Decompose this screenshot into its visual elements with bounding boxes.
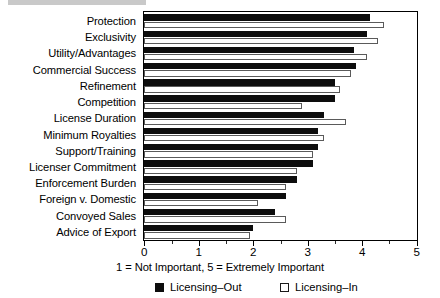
bar-licensing-out bbox=[144, 112, 324, 118]
hollow-square-icon bbox=[280, 283, 289, 292]
bar-licensing-in bbox=[144, 151, 313, 157]
bar-licensing-in bbox=[144, 216, 286, 222]
bar-licensing-out bbox=[144, 63, 356, 69]
bar-licensing-in bbox=[144, 200, 258, 206]
bar-licensing-out bbox=[144, 128, 318, 134]
bar-row bbox=[144, 46, 417, 62]
bar-row bbox=[144, 29, 417, 45]
bar-row bbox=[144, 94, 417, 110]
bar-licensing-out bbox=[144, 160, 313, 166]
category-label: Commercial Success bbox=[33, 62, 136, 78]
bar-licensing-in bbox=[144, 135, 324, 141]
bar-chart: ProtectionExclusivityUtility/AdvantagesC… bbox=[0, 0, 440, 298]
category-label: Convoyed Sales bbox=[56, 208, 136, 224]
bar-licensing-in bbox=[144, 232, 250, 238]
category-label: Refinement bbox=[80, 78, 136, 94]
legend-label-licensing-out: Licensing–Out bbox=[170, 281, 242, 293]
bar-row bbox=[144, 175, 417, 191]
bar-licensing-out bbox=[144, 209, 275, 215]
category-label: Enforcement Burden bbox=[35, 175, 136, 191]
x-axis-label: 1 = Not Important, 5 = Extremely Importa… bbox=[0, 261, 440, 273]
bar-licensing-in bbox=[144, 54, 367, 60]
bar-licensing-in bbox=[144, 103, 302, 109]
category-label: Minimum Royalties bbox=[43, 127, 136, 143]
bar-row bbox=[144, 127, 417, 143]
bar-row bbox=[144, 143, 417, 159]
x-tick-label: 4 bbox=[342, 244, 382, 260]
legend-label-licensing-in: Licensing–In bbox=[295, 281, 358, 293]
bar-licensing-out bbox=[144, 95, 335, 101]
category-label: Competition bbox=[77, 94, 136, 110]
x-tick-label: 2 bbox=[233, 244, 273, 260]
plot-area bbox=[143, 11, 418, 241]
bar-licensing-out bbox=[144, 176, 297, 182]
category-label: Support/Training bbox=[55, 143, 136, 159]
bar-licensing-out bbox=[144, 31, 367, 37]
filled-square-icon bbox=[155, 283, 164, 292]
bar-licensing-in bbox=[144, 22, 384, 28]
bar-row bbox=[144, 110, 417, 126]
category-label: Protection bbox=[87, 13, 136, 29]
legend-item-licensing-out: Licensing–Out bbox=[155, 279, 242, 295]
bar-licensing-out bbox=[144, 193, 286, 199]
scan-artifact-strip bbox=[8, 0, 146, 5]
x-tick-label: 3 bbox=[288, 244, 328, 260]
bar-licensing-in bbox=[144, 119, 346, 125]
bar-licensing-out bbox=[144, 47, 354, 53]
bar-row bbox=[144, 78, 417, 94]
bar-licensing-out bbox=[144, 225, 253, 231]
category-label: Advice of Export bbox=[56, 224, 136, 240]
x-tick-label: 5 bbox=[397, 244, 437, 260]
category-label-column: ProtectionExclusivityUtility/AdvantagesC… bbox=[0, 13, 136, 240]
bar-licensing-out bbox=[144, 144, 318, 150]
bar-licensing-in bbox=[144, 86, 340, 92]
bar-row bbox=[144, 62, 417, 78]
category-label: Licenser Commitment bbox=[29, 159, 136, 175]
x-axis-tick-labels: 012345 bbox=[123, 244, 438, 260]
bar-licensing-in bbox=[144, 38, 378, 44]
bar-licensing-in bbox=[144, 184, 286, 190]
bar-row bbox=[144, 224, 417, 240]
x-tick-label: 1 bbox=[179, 244, 219, 260]
bar-row bbox=[144, 159, 417, 175]
bar-row bbox=[144, 13, 417, 29]
category-label: License Duration bbox=[54, 110, 136, 126]
bar-licensing-in bbox=[144, 70, 351, 76]
category-label: Utility/Advantages bbox=[48, 45, 136, 61]
bar-row bbox=[144, 208, 417, 224]
category-label: Foreign v. Domestic bbox=[39, 191, 136, 207]
x-tick-label: 0 bbox=[124, 244, 164, 260]
bar-licensing-out bbox=[144, 14, 370, 20]
bar-row bbox=[144, 192, 417, 208]
bar-licensing-out bbox=[144, 79, 335, 85]
legend-item-licensing-in: Licensing–In bbox=[280, 279, 358, 295]
bar-licensing-in bbox=[144, 168, 297, 174]
bar-rows bbox=[144, 12, 417, 240]
chart-legend: Licensing–Out Licensing–In bbox=[0, 279, 440, 295]
category-label: Exclusivity bbox=[85, 29, 136, 45]
